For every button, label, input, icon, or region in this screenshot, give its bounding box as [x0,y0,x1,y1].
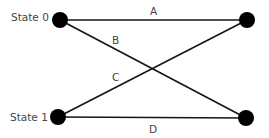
state-0-label: State 0 [11,11,49,23]
edge-d [58,117,246,118]
edge-a-label: A [150,5,158,17]
edge-b-label: B [112,34,119,46]
edge-c-label: C [112,71,119,83]
node-state-0-left [52,12,68,28]
node-state-0-right [239,12,255,28]
state-diagram: State 0 State 1 A B C D [0,0,269,138]
node-state-1-right [238,110,254,126]
node-state-1-left [50,109,66,125]
state-1-label: State 1 [10,111,48,123]
edge-d-label: D [149,123,157,135]
